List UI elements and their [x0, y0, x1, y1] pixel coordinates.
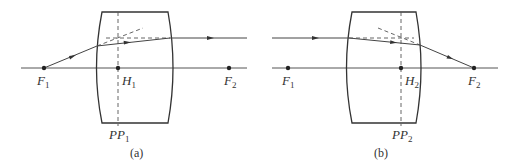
arrow-icon — [447, 55, 454, 59]
thick-lens-figure: F1 H1 F2 PP1 (a) F1 H2 — [0, 0, 514, 166]
principal-point-h2 — [399, 66, 403, 70]
label-pp2: PP2 — [392, 128, 412, 144]
label-pp1: PP1 — [109, 128, 129, 144]
label-h2: H2 — [405, 74, 419, 90]
arrow-icon — [312, 36, 319, 40]
focal-point-f1 — [286, 66, 290, 70]
panel-a: F1 H1 F2 PP1 (a) — [0, 0, 257, 166]
caption-b: (b) — [374, 147, 388, 159]
panel-b: F1 H2 F2 PP2 (b) — [257, 0, 514, 166]
label-f2: F2 — [224, 74, 236, 90]
focal-point-f2 — [472, 66, 476, 70]
label-f1: F1 — [37, 74, 49, 90]
label-f2: F2 — [468, 74, 480, 90]
light-ray — [44, 38, 247, 68]
arrow-icon — [390, 40, 397, 44]
caption-a: (a) — [130, 147, 143, 159]
light-ray — [272, 38, 474, 68]
arrow-icon — [69, 55, 76, 60]
focal-point-f2 — [227, 66, 231, 70]
label-f1: F1 — [282, 74, 294, 90]
label-h1: H1 — [122, 74, 136, 90]
principal-point-h1 — [116, 66, 120, 70]
focal-point-f1 — [42, 66, 46, 70]
arrow-icon — [207, 36, 214, 40]
